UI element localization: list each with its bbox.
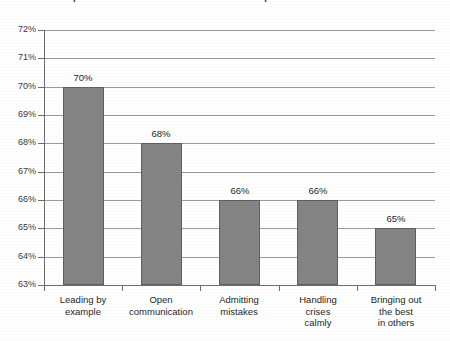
x-axis-category-label: Handlingcrisescalmly [279,294,357,329]
bar-value-label: 65% [366,214,426,224]
y-axis-tick [38,143,45,144]
y-axis-tick [38,30,45,31]
x-axis-tick [279,285,280,291]
y-axis-tick [38,115,45,116]
bar [375,228,416,285]
x-axis-tick [357,285,358,291]
bar-chart: Most Important Attributes for Effective … [0,0,450,341]
x-axis-category-label: Leading byexample [44,294,122,317]
x-axis-tick [200,285,201,291]
y-axis-line [44,30,45,286]
y-axis-tick [38,228,45,229]
y-axis-label: 70% [0,82,36,91]
gridline [44,58,435,59]
bar [141,143,182,285]
bar [297,200,338,285]
y-axis-tick [38,58,45,59]
y-axis-label: 69% [0,110,36,119]
x-axis-category-label: Admittingmistakes [200,294,278,317]
y-axis-tick [38,87,45,88]
x-axis-tick [44,285,45,291]
gridline [44,30,435,31]
gridline [44,285,435,286]
y-axis-label: 67% [0,167,36,176]
bar-value-label: 70% [53,73,113,83]
bar [63,87,104,285]
y-axis-label: 65% [0,223,36,232]
chart-title: Most Important Attributes for Effective … [36,0,336,3]
bar-value-label: 68% [131,129,191,139]
y-axis-label: 64% [0,252,36,261]
y-axis-tick [38,200,45,201]
y-axis-label: 71% [0,53,36,62]
y-axis-label: 68% [0,138,36,147]
bar-value-label: 66% [210,186,270,196]
x-axis-tick [122,285,123,291]
x-axis-category-label: Bringing outthe bestin others [357,294,435,329]
y-axis-label: 63% [0,280,36,289]
y-axis-tick [38,257,45,258]
bar-value-label: 66% [288,186,348,196]
x-axis-category-label: Opencommunication [122,294,200,317]
y-axis-label: 66% [0,195,36,204]
bar [219,200,260,285]
y-axis-label: 72% [0,25,36,34]
y-axis-tick [38,172,45,173]
x-axis-tick [435,285,436,291]
